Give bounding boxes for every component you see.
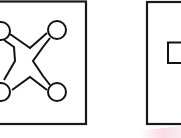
circle-top-right-icon bbox=[48, 21, 66, 39]
circle-bottom-left-icon bbox=[0, 83, 10, 101]
circle-bottom-right-icon bbox=[48, 83, 66, 101]
figure-canvas bbox=[0, 0, 181, 138]
right-panel-rectangle-shape bbox=[168, 43, 181, 64]
circle-top-left-icon bbox=[0, 22, 10, 40]
figure-svg bbox=[0, 0, 181, 138]
